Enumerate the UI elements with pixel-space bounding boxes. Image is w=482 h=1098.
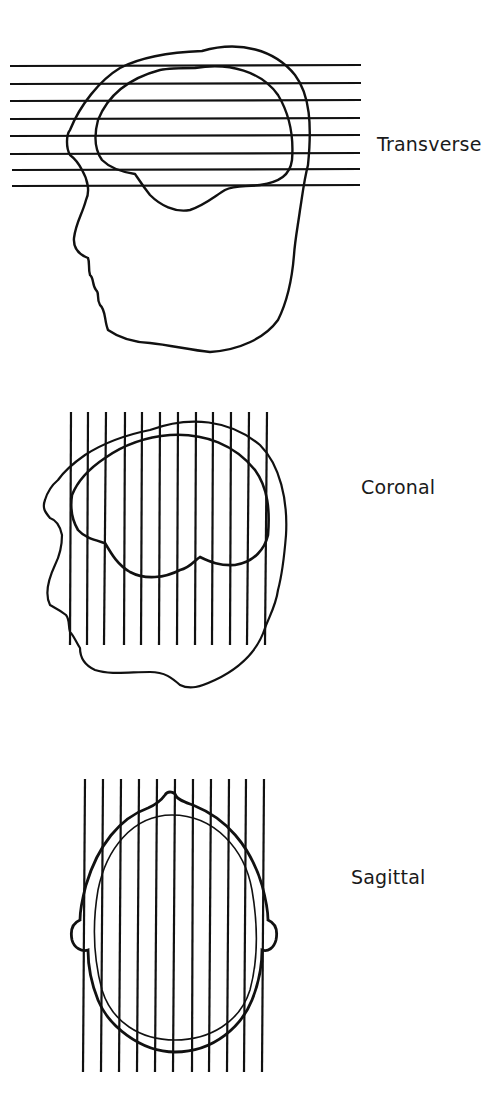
transverse-panel: Transverse: [0, 0, 479, 370]
coronal-label: Coronal: [361, 476, 435, 498]
sagittal-label: Sagittal: [351, 866, 425, 888]
head-outline: [44, 422, 286, 688]
sagittal-scan-lines: [83, 779, 264, 1072]
transverse-label: Transverse: [377, 133, 482, 155]
brain-outline: [71, 435, 268, 577]
coronal-diagram: [0, 400, 479, 740]
transverse-diagram: [0, 0, 479, 370]
head-outline: [67, 47, 310, 352]
brain-outline: [96, 66, 293, 210]
sagittal-panel: Sagittal: [0, 760, 479, 1098]
coronal-panel: Coronal: [0, 400, 479, 740]
sagittal-diagram: [0, 760, 479, 1098]
